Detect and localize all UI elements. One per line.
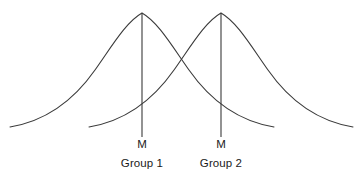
curve-group-2 — [89, 13, 353, 137]
distribution-diagram — [0, 0, 364, 180]
figure-canvas: M Group 1 M Group 2 — [0, 0, 364, 180]
group-label-group-1: Group 1 — [112, 158, 172, 170]
mean-label-group-2: M — [191, 139, 251, 151]
curve-group-1 — [10, 13, 274, 137]
group-label-group-2: Group 2 — [191, 158, 251, 170]
mean-label-group-1: M — [112, 139, 172, 151]
